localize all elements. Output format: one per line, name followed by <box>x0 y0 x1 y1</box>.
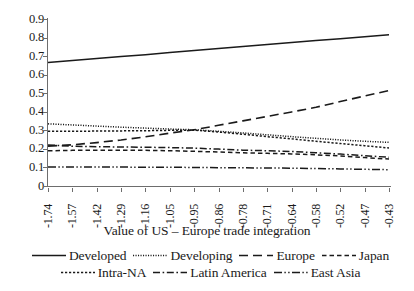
series-line-east-asia <box>48 167 389 170</box>
y-tick-label: 0.4 <box>0 105 44 118</box>
x-tick-mark <box>72 188 73 192</box>
legend-entry[interactable]: Latin America <box>146 266 266 280</box>
legend-label: East Asia <box>311 266 361 280</box>
legend-label: Developing <box>170 249 232 263</box>
x-tick-mark <box>194 188 195 192</box>
x-tick-mark <box>170 188 171 192</box>
legend-entry[interactable]: Intra-NA <box>54 266 147 280</box>
x-tick-mark <box>389 188 390 192</box>
legend-line-swatch-icon <box>239 250 273 261</box>
series-lines <box>48 19 390 186</box>
legend-line-swatch-icon <box>274 267 308 278</box>
legend-line-swatch-icon <box>61 267 95 278</box>
legend-line-swatch-icon <box>32 250 66 261</box>
series-line-developing <box>48 124 389 143</box>
legend-label: Latin America <box>190 266 266 280</box>
legend-line-swatch-icon <box>153 267 187 278</box>
series-line-latin-america <box>48 145 389 157</box>
x-axis-line <box>47 186 391 187</box>
line-chart-figure: 0.90.80.70.60.50.40.30.20.10 -1.74-1.57-… <box>0 0 414 291</box>
legend-entry[interactable]: Japan <box>315 249 389 263</box>
y-tick-label: 0.5 <box>0 87 44 100</box>
x-tick-mark <box>219 188 220 192</box>
x-tick-mark <box>340 188 341 192</box>
y-tick-label: 0.9 <box>0 13 44 26</box>
legend-line-swatch-icon <box>322 250 356 261</box>
y-tick-label: 0 <box>0 180 44 193</box>
legend-entry[interactable]: Developed <box>25 249 127 263</box>
x-tick-mark <box>145 188 146 192</box>
legend-label: Japan <box>359 249 389 263</box>
x-tick-mark <box>243 188 244 192</box>
series-line-europe <box>48 90 389 146</box>
legend-line-swatch-icon <box>133 250 167 261</box>
legend-entry[interactable]: Europe <box>232 249 314 263</box>
x-axis: -1.74-1.57-1.42-1.29-1.16-1.05-0.95-0.86… <box>48 188 390 228</box>
x-tick-mark <box>267 188 268 192</box>
legend-label: Developed <box>69 249 127 263</box>
y-tick-label: 0.3 <box>0 124 44 137</box>
x-tick-mark <box>97 188 98 192</box>
y-tick-label: 0.7 <box>0 50 44 63</box>
x-tick-mark <box>48 188 49 192</box>
x-tick-mark <box>292 188 293 192</box>
legend-row-2: Intra-NALatin AmericaEast Asia <box>0 264 414 281</box>
legend-entry[interactable]: Developing <box>126 249 232 263</box>
y-tick-label: 0.2 <box>0 142 44 155</box>
y-tick-label: 0.6 <box>0 68 44 81</box>
x-tick-mark <box>121 188 122 192</box>
x-tick-mark <box>316 188 317 192</box>
legend-label: Intra-NA <box>98 266 147 280</box>
legend-entry[interactable]: East Asia <box>267 266 361 280</box>
x-tick-mark <box>365 188 366 192</box>
series-line-intra-na <box>48 130 389 148</box>
x-axis-title: Value of US – Europe trade integration <box>0 223 414 238</box>
plot-area <box>48 19 390 186</box>
series-line-developed <box>48 35 389 63</box>
legend-label: Europe <box>276 249 314 263</box>
legend-row-1: DevelopedDevelopingEuropeJapan <box>0 247 414 264</box>
y-tick-label: 0.1 <box>0 161 44 174</box>
y-tick-label: 0.8 <box>0 31 44 44</box>
chart-legend: DevelopedDevelopingEuropeJapan Intra-NAL… <box>0 247 414 281</box>
